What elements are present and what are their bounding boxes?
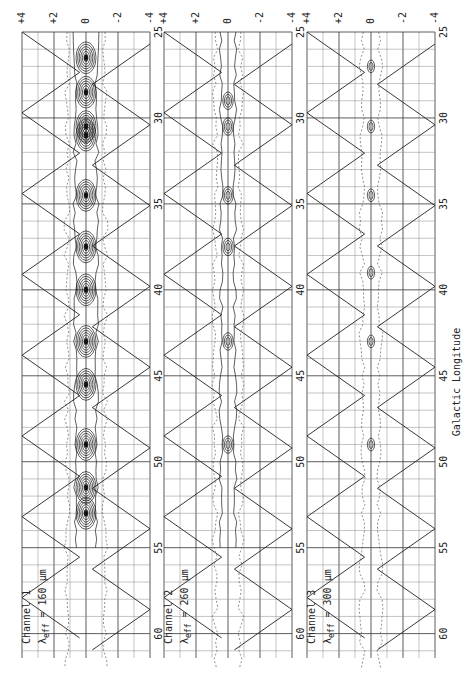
source-contour (76, 179, 96, 211)
panel-2: +4+20-2-42530354045505560Channel 2λeff =… (158, 12, 306, 668)
longitude-tick-label: 40 (295, 284, 306, 296)
latitude-tick-label: 0 (365, 18, 376, 24)
x-axis-label: Galactic Longitude (451, 328, 462, 436)
latitude-tick-label: +2 (190, 12, 201, 24)
longitude-tick-label: 30 (438, 112, 449, 124)
source-peak (84, 55, 88, 61)
longitude-tick-label: 35 (153, 198, 164, 210)
contour-envelope (212, 32, 218, 668)
scan-path-upper (22, 32, 80, 638)
latitude-tick-label: +4 (301, 12, 312, 24)
contour-envelope (102, 32, 108, 668)
source-contour (76, 231, 96, 263)
panel-1: +4+20-2-42530354045505560Channel 1λeff =… (16, 12, 164, 668)
scan-path-upper (164, 32, 222, 638)
longitude-tick-label: 45 (295, 370, 306, 382)
longitude-tick-label: 50 (153, 456, 164, 468)
longitude-tick-label: 45 (438, 370, 449, 382)
source-peak (84, 510, 88, 516)
source-contour (76, 274, 96, 306)
longitude-tick-label: 55 (438, 542, 449, 554)
source-peak (84, 485, 88, 491)
latitude-tick-label: -4 (429, 12, 440, 24)
source-peak (84, 338, 88, 344)
longitude-tick-label: 50 (438, 456, 449, 468)
source-contour (76, 472, 96, 504)
contour-map-figure: +4+20-2-42530354045505560Channel 1λeff =… (0, 0, 473, 687)
source-contour (76, 119, 96, 151)
longitude-tick-label: 35 (295, 198, 306, 210)
source-peak (84, 192, 88, 198)
longitude-tick-label: 50 (295, 456, 306, 468)
latitude-tick-label: 0 (222, 18, 233, 24)
source-contour (76, 76, 96, 108)
longitude-tick-label: 25 (295, 26, 306, 38)
source-peak (84, 244, 88, 250)
source-contour (76, 42, 96, 74)
longitude-tick-label: 60 (295, 628, 306, 640)
longitude-tick-label: 25 (438, 26, 449, 38)
longitude-tick-label: 55 (153, 542, 164, 554)
source-contour (76, 325, 96, 357)
latitude-tick-label: 0 (80, 18, 91, 24)
scan-path-upper (307, 32, 365, 638)
latitude-tick-label: -2 (254, 12, 265, 24)
wavelength-label: λeff = 260 μm (179, 569, 193, 644)
latitude-tick-label: -4 (286, 12, 297, 24)
wavelength-label: λeff = 160 μm (37, 569, 51, 644)
source-contour (76, 429, 96, 461)
source-contour (76, 497, 96, 529)
latitude-tick-label: +4 (158, 12, 169, 24)
source-contour (76, 368, 96, 400)
latitude-tick-label: +4 (16, 12, 27, 24)
longitude-tick-label: 40 (153, 284, 164, 296)
longitude-tick-label: 35 (438, 198, 449, 210)
longitude-tick-label: 55 (295, 542, 306, 554)
longitude-tick-label: 25 (153, 26, 164, 38)
latitude-tick-label: -2 (397, 12, 408, 24)
longitude-tick-label: 30 (295, 112, 306, 124)
contour-envelope (64, 32, 70, 668)
source-peak (84, 381, 88, 387)
longitude-tick-label: 30 (153, 112, 164, 124)
source-peak (84, 287, 88, 293)
source-peak (84, 132, 88, 138)
panel-3: +4+20-2-42530354045505560Channel 3λeff =… (301, 12, 449, 668)
contour-envelope (359, 32, 365, 668)
latitude-tick-label: +2 (333, 12, 344, 24)
channel-label: Channel 3 (306, 590, 317, 644)
latitude-tick-label: -4 (144, 12, 155, 24)
wavelength-label: λeff = 300 μm (322, 569, 336, 644)
longitude-tick-label: 40 (438, 284, 449, 296)
longitude-tick-label: 45 (153, 370, 164, 382)
latitude-tick-label: +2 (48, 12, 59, 24)
channel-label: Channel 2 (163, 590, 174, 644)
channel-label: Channel 1 (21, 590, 32, 644)
latitude-tick-label: -2 (112, 12, 123, 24)
longitude-tick-label: 60 (438, 628, 449, 640)
source-peak (84, 89, 88, 95)
source-peak (84, 442, 88, 448)
